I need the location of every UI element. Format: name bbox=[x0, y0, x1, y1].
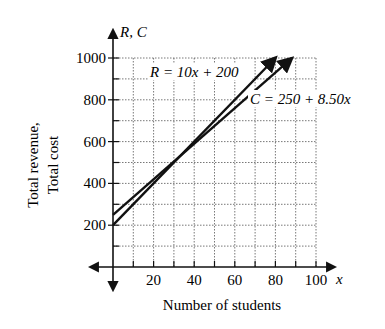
x-tick-label: 80 bbox=[268, 272, 283, 288]
y-variable-label: R, C bbox=[119, 24, 148, 40]
series bbox=[113, 58, 292, 225]
x-tick-label: 100 bbox=[305, 272, 328, 288]
cost-equation-label: C = 250 + 8.50x bbox=[250, 91, 351, 107]
y-axis-title-line1: Total revenue, bbox=[25, 122, 41, 208]
revenue-equation-label: R = 10x + 200 bbox=[149, 64, 239, 80]
y-tick-label: 400 bbox=[84, 175, 107, 191]
x-variable-label: x bbox=[335, 271, 343, 287]
x-tick-label: 40 bbox=[187, 272, 202, 288]
y-tick-label: 1000 bbox=[76, 50, 106, 66]
y-tick-label: 600 bbox=[84, 134, 107, 150]
cost-line bbox=[113, 58, 292, 214]
x-tick-labels: 20 40 60 80 100 bbox=[146, 272, 327, 288]
y-tick-label: 200 bbox=[84, 217, 107, 233]
grid bbox=[113, 58, 316, 267]
y-tick-labels: 1000 800 600 400 200 bbox=[76, 50, 106, 233]
chart-canvas: 1000 800 600 400 200 20 40 60 80 100 R, … bbox=[0, 0, 385, 329]
x-tick-label: 60 bbox=[227, 272, 242, 288]
y-axis-title: Total revenue, Total cost bbox=[25, 122, 61, 208]
y-axis-title-line2: Total cost bbox=[45, 135, 61, 194]
y-tick-label: 800 bbox=[84, 92, 107, 108]
x-tick-label: 20 bbox=[146, 272, 161, 288]
x-axis-title: Number of students bbox=[163, 297, 281, 313]
